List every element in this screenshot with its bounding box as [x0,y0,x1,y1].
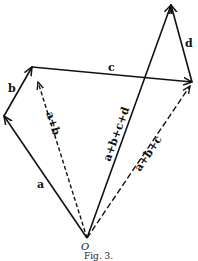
label-a-plus-b-plus-c: a+b+c [132,133,165,174]
label-a-plus-b: a+b [43,110,63,137]
vector-a-plus-b [38,82,87,238]
label-b: b [8,82,16,95]
label-a: a [37,178,44,191]
diagram-canvas: a b c d a+b a+b+c a+b+c+d O Fig. 3. [0,0,198,261]
label-c: c [108,61,115,74]
label-d: d [185,37,193,50]
vector-resultant [87,5,171,238]
vector-a [4,116,87,238]
figure-caption: Fig. 3. [84,251,113,261]
vector-addition-figure: a b c d a+b a+b+c a+b+c+d O Fig. 3. [0,0,198,261]
